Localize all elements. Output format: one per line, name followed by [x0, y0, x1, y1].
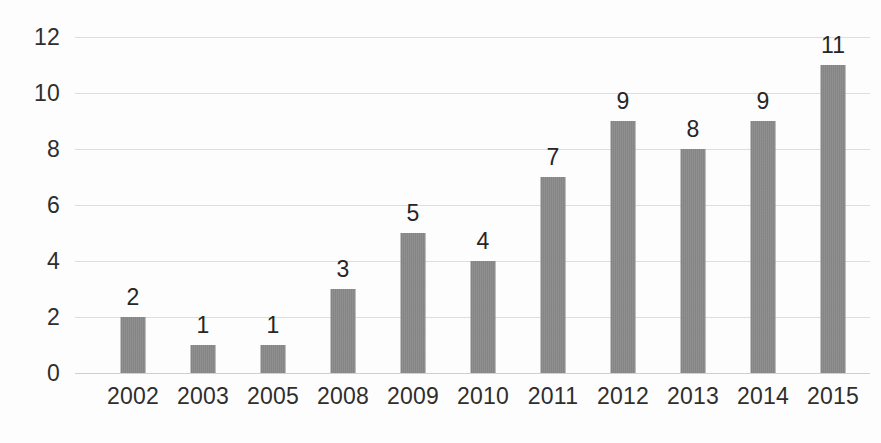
bar-group: 3 — [308, 0, 378, 443]
bar-value-label: 2 — [127, 286, 140, 309]
bar-value-label: 4 — [477, 230, 490, 253]
x-axis-tick-label: 2010 — [448, 384, 518, 409]
bar — [541, 177, 566, 373]
y-axis-tick-label: 8 — [8, 138, 60, 161]
x-axis-tick-label: 2003 — [168, 384, 238, 409]
x-axis-tick-label: 2002 — [98, 384, 168, 409]
plot-area: 211354798911 — [75, 0, 870, 443]
bar-value-label: 5 — [407, 202, 420, 225]
x-axis-tick-label: 2012 — [588, 384, 658, 409]
bar-group: 11 — [798, 0, 868, 443]
bar — [751, 121, 776, 373]
bar-value-label: 11 — [821, 34, 845, 57]
y-axis-tick-label: 0 — [8, 362, 60, 385]
bar — [401, 233, 426, 373]
y-axis-tick-label: 4 — [8, 250, 60, 273]
bar-value-label: 7 — [547, 146, 560, 169]
y-axis-tick-label: 10 — [8, 82, 60, 105]
y-axis-tick-label: 6 — [8, 194, 60, 217]
bar-value-label: 8 — [687, 118, 700, 141]
y-axis-tick-label: 12 — [8, 26, 60, 49]
x-axis-tick-label: 2013 — [658, 384, 728, 409]
bar-group: 8 — [658, 0, 728, 443]
bar-chart: 024681012 211354798911 20022003200520082… — [0, 0, 881, 443]
bar — [331, 289, 356, 373]
bar — [611, 121, 636, 373]
bar-group: 2 — [98, 0, 168, 443]
x-axis-tick-label: 2008 — [308, 384, 378, 409]
bar — [471, 261, 496, 373]
bar-group: 4 — [448, 0, 518, 443]
x-axis-tick-label: 2015 — [798, 384, 868, 409]
x-axis-tick-label: 2005 — [238, 384, 308, 409]
bar-value-label: 9 — [617, 90, 630, 113]
x-axis-tick-label: 2011 — [518, 384, 588, 409]
bar-group: 5 — [378, 0, 448, 443]
x-axis-tick-label: 2009 — [378, 384, 448, 409]
bar — [191, 345, 216, 373]
y-axis-tick-label: 2 — [8, 306, 60, 329]
bar-series: 211354798911 — [75, 0, 870, 443]
bar-group: 7 — [518, 0, 588, 443]
bar — [121, 317, 146, 373]
bar-value-label: 3 — [337, 258, 350, 281]
bar — [821, 65, 846, 373]
bar-value-label: 1 — [267, 314, 280, 337]
bar — [261, 345, 286, 373]
y-axis: 024681012 — [8, 0, 60, 443]
bar — [681, 149, 706, 373]
bar-group: 1 — [238, 0, 308, 443]
bar-group: 9 — [728, 0, 798, 443]
x-axis-tick-label: 2014 — [728, 384, 798, 409]
bar-group: 1 — [168, 0, 238, 443]
bar-group: 9 — [588, 0, 658, 443]
x-axis: 2002200320052008200920102011201220132014… — [75, 384, 870, 424]
bar-value-label: 9 — [757, 90, 770, 113]
bar-value-label: 1 — [197, 314, 210, 337]
